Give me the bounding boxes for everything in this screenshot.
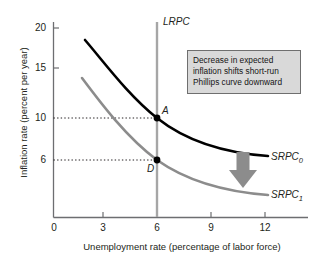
srpc1-label: SRPC1	[271, 189, 303, 203]
phillips-curve-figure: 20 15 10 6 0 3 6 9 12 Inflation rate (pe…	[0, 0, 314, 262]
point-d-marker	[154, 157, 161, 164]
y-axis-title: Inflation rate (percent per year)	[18, 43, 29, 183]
point-a-marker	[154, 115, 161, 122]
x-axis-title: Unemployment rate (percentage of labor f…	[57, 241, 307, 252]
srpc1-label-text: SRPC	[271, 189, 299, 200]
srpc0-label-sub: 0	[299, 156, 303, 165]
x-tick-label-9: 9	[199, 222, 223, 233]
callout-box: Decrease in expected inflation shifts sh…	[187, 50, 301, 94]
x-tick-label-3: 3	[91, 222, 115, 233]
x-tick-label-12: 12	[253, 222, 277, 233]
x-tick-label-6: 6	[145, 222, 169, 233]
x-tick-label-0: 0	[42, 222, 66, 233]
y-tick-label-20: 20	[18, 22, 46, 33]
point-d-label: D	[147, 163, 154, 174]
shift-arrow-icon	[229, 152, 257, 188]
srpc0-label-text: SRPC	[271, 151, 299, 162]
lrpc-label: LRPC	[163, 16, 190, 27]
point-a-label: A	[162, 105, 169, 116]
srpc0-label: SRPC0	[271, 151, 303, 165]
srpc1-label-sub: 1	[299, 194, 303, 203]
